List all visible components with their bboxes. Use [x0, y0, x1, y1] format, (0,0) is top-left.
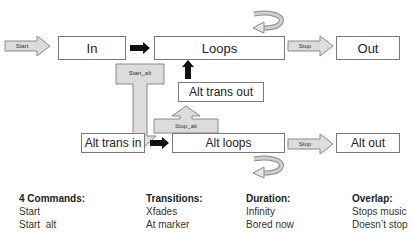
loop-icon-lower — [250, 156, 286, 178]
legend-transitions: Transitions: Xfades At marker — [146, 192, 203, 231]
transition-arrow-alt-trans-out-to-loops — [182, 60, 194, 80]
loop-icon — [250, 11, 286, 33]
start-alt-command-label: Start_alt — [116, 67, 164, 79]
legend-item: At marker — [146, 218, 203, 231]
transition-arrow-alt-trans-in-to-alt-loops — [150, 137, 170, 149]
legend-overlap: Overlap: Stops music Doesn’t stop — [352, 192, 408, 231]
legend-duration: Duration: Infinity Bored now — [246, 192, 294, 231]
legend-item: Start — [19, 205, 85, 218]
legend-item: Stops music — [352, 205, 408, 218]
legend-item: Start alt — [19, 218, 85, 231]
legend-duration-heading: Duration: — [246, 192, 294, 205]
legend-commands-heading: 4 Commands: — [19, 192, 85, 205]
stop-command-label-lower: Stop — [288, 139, 322, 149]
transition-arrow-in-to-loops — [130, 42, 152, 54]
legend-commands: 4 Commands: Start Start alt — [19, 192, 85, 231]
state-out: Out — [336, 36, 400, 60]
state-alt-out: Alt out — [336, 133, 400, 153]
legend-item: Infinity — [246, 205, 294, 218]
start-command-label: Start — [5, 41, 39, 51]
stop-alt-command-label: Stop_alt — [154, 120, 218, 132]
legend-transitions-heading: Transitions: — [146, 192, 203, 205]
legend-item: Xfades — [146, 205, 203, 218]
state-alt-loops: Alt loops — [172, 133, 285, 153]
legend-item: Doesn’t stop — [352, 218, 408, 231]
state-loops: Loops — [154, 36, 285, 60]
legend-item: Bored now — [246, 218, 294, 231]
state-alt-trans-in: Alt trans in — [81, 133, 145, 153]
stop-command-label: Stop — [288, 41, 322, 51]
legend-overlap-heading: Overlap: — [352, 192, 408, 205]
state-in: In — [58, 36, 126, 60]
state-alt-trans-out: Alt trans out — [178, 82, 264, 102]
